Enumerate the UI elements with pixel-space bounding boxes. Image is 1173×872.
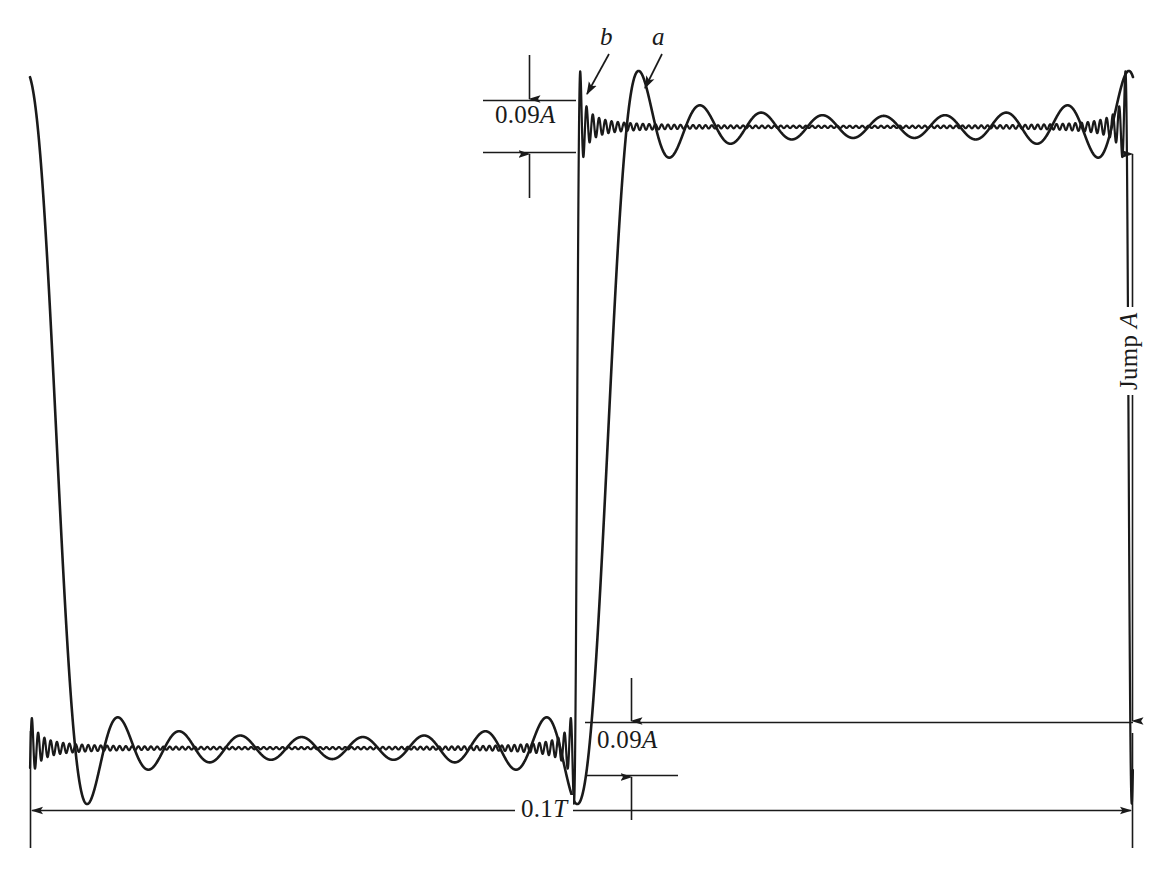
curve-label-a: a — [652, 23, 665, 51]
lower-undershoot-label: 0.09A — [597, 726, 658, 754]
plot-canvas — [0, 0, 1173, 872]
leader-line-b — [587, 54, 609, 94]
period-symbol: T — [553, 795, 567, 822]
amplitude-symbol: A — [642, 726, 658, 753]
curve-b-high-order — [30, 71, 1133, 803]
gibbs-phenomenon-figure: 0.09A 0.09A 0.1T Jump A b a — [0, 0, 1173, 872]
curve-label-leaders — [587, 54, 662, 94]
curve-a-low-order — [30, 71, 1133, 804]
amplitude-symbol: A — [540, 101, 556, 128]
lower-undershoot-dimension — [585, 678, 1133, 820]
amplitude-symbol: A — [1115, 312, 1142, 328]
upper-overshoot-label: 0.09A — [495, 101, 556, 129]
fourier-curves — [30, 71, 1133, 804]
leader-line-a — [645, 54, 662, 88]
jump-label: Jump A — [1112, 307, 1146, 395]
horizontal-span-label: 0.1T — [515, 795, 573, 823]
curve-label-b: b — [600, 23, 613, 51]
